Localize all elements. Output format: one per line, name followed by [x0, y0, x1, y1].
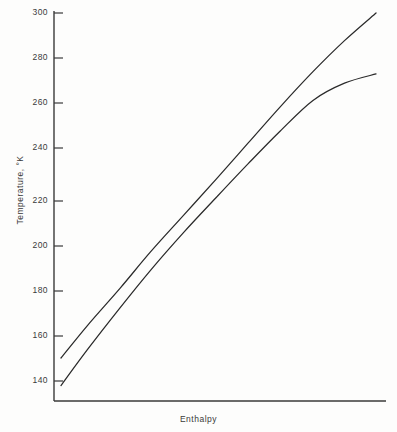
x-axis-label: Enthalpy — [0, 414, 397, 424]
y-tick-label-140: 140 — [18, 375, 48, 385]
lower-curve — [61, 74, 376, 386]
upper-curve — [61, 13, 376, 358]
y-tick-label-300: 300 — [18, 7, 48, 17]
y-tick-label-260: 260 — [18, 97, 48, 107]
y-tick-label-280: 280 — [18, 52, 48, 62]
y-tick-marks — [54, 13, 63, 381]
y-tick-label-180: 180 — [18, 285, 48, 295]
y-axis-label: Temperature, °K — [15, 130, 25, 250]
plot-area — [0, 0, 397, 432]
chart-figure: 300 280 260 240 220 200 180 160 140 Temp… — [0, 0, 397, 432]
y-tick-label-160: 160 — [18, 330, 48, 340]
